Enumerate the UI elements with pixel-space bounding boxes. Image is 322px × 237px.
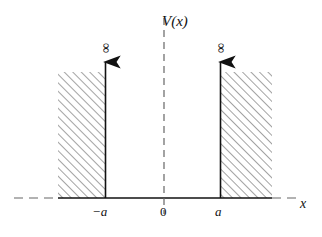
right-forbidden-region <box>220 72 272 198</box>
potential-well-diagram <box>0 0 322 237</box>
tick-label-a: a <box>215 205 222 218</box>
left-forbidden-region <box>58 72 105 198</box>
infinity-symbol-left: ∞ <box>99 41 113 55</box>
x-axis-label: x <box>300 197 306 211</box>
infinity-symbol-right: ∞ <box>214 41 228 55</box>
v-axis-label: V(x) <box>162 14 188 29</box>
tick-label-minus-a: −a <box>92 205 107 218</box>
diagram-background <box>0 0 322 237</box>
tick-label-origin: 0 <box>160 205 167 218</box>
